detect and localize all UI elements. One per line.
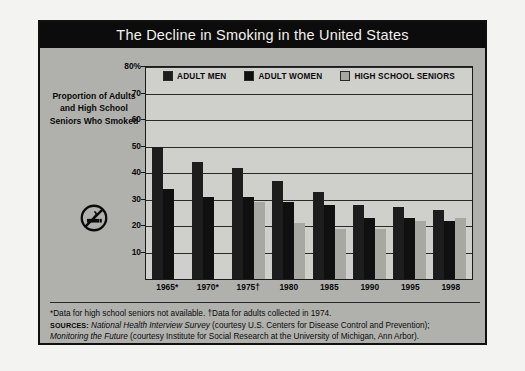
x-axis-label: 1965* (147, 282, 188, 292)
bar-men (353, 205, 364, 279)
x-axis-label: 1998 (431, 282, 472, 292)
bars-container (146, 67, 472, 279)
x-axis-label: 1985 (309, 282, 350, 292)
x-axis-label: 1980 (269, 282, 310, 292)
page-title: The Decline in Smoking in the United Sta… (116, 27, 408, 43)
y-axis-tick-label: 60 (119, 114, 141, 124)
bar-men (393, 207, 404, 279)
y-axis-tick-mark (141, 252, 145, 253)
y-axis-tick-label: 30 (119, 194, 141, 204)
y-axis-tick-mark (141, 93, 145, 94)
y-axis-tick-mark (141, 119, 145, 120)
bar-men (433, 210, 444, 279)
y-axis-tick-label: 70 (119, 88, 141, 98)
bar-women (203, 197, 214, 279)
footnote-divider (50, 302, 480, 303)
y-axis-tick-mark (141, 172, 145, 173)
footnotes: *Data for high school seniors not availa… (50, 302, 480, 343)
no-smoking-icon (80, 204, 108, 232)
bar-women (163, 189, 174, 279)
bar-group (309, 67, 349, 279)
y-axis-tick-mark (141, 199, 145, 200)
bar-men (313, 192, 324, 279)
bar-men (232, 168, 243, 279)
bar-women (404, 218, 415, 279)
x-axis-label: 1990 (350, 282, 391, 292)
y-axis-tick-label: 10 (119, 247, 141, 257)
x-axis-label: 1975† (228, 282, 269, 292)
bar-group (390, 67, 430, 279)
bar-seniors (294, 223, 305, 279)
chart-figure: The Decline in Smoking in the United Sta… (38, 20, 487, 345)
footnote-sources-2: Monitoring the Future (courtesy Institut… (50, 331, 480, 343)
sources-label: Sources: (50, 321, 89, 330)
y-axis-tick-label: 80% (119, 61, 141, 71)
bar-seniors (335, 229, 346, 279)
footnote-sources-1: Sources: National Health Interview Surve… (50, 320, 480, 332)
y-axis-tick-mark (141, 66, 145, 67)
bar-group (229, 67, 269, 279)
bar-group (148, 67, 188, 279)
source-2-title: Monitoring the Future (50, 332, 128, 341)
bar-men (152, 147, 163, 280)
title-bar: The Decline in Smoking in the United Sta… (40, 22, 485, 48)
bar-women (324, 205, 335, 279)
footnote-line-1: *Data for high school seniors not availa… (50, 308, 480, 320)
y-axis-tick-mark (141, 225, 145, 226)
bar-group (188, 67, 228, 279)
y-axis-tick-label: 20 (119, 220, 141, 230)
bar-seniors (415, 221, 426, 279)
bar-group (430, 67, 470, 279)
bar-group (269, 67, 309, 279)
plot-area: Adult MenAdult WomenHigh School Seniors (145, 66, 473, 280)
x-axis-label: 1970* (188, 282, 229, 292)
source-1-rest: (courtesy U.S. Centers for Disease Contr… (210, 321, 430, 330)
bar-seniors (375, 229, 386, 279)
x-axis-label: 1995 (390, 282, 431, 292)
bar-men (192, 162, 203, 279)
y-axis-tick-mark (141, 146, 145, 147)
bar-seniors (254, 202, 265, 279)
bar-group (349, 67, 389, 279)
y-axis-tick-label: 40 (119, 167, 141, 177)
bar-women (364, 218, 375, 279)
y-axis-tick-label: 50 (119, 141, 141, 151)
x-axis-labels: 1965*1970*1975†19801985199019951998 (145, 282, 473, 292)
bar-women (444, 221, 455, 279)
source-2-rest: (courtesy Institute for Social Research … (128, 332, 419, 341)
bar-men (272, 181, 283, 279)
bar-women (283, 202, 294, 279)
source-1-title: National Health Interview Survey (91, 321, 210, 330)
bar-seniors (455, 218, 466, 279)
bar-women (243, 197, 254, 279)
